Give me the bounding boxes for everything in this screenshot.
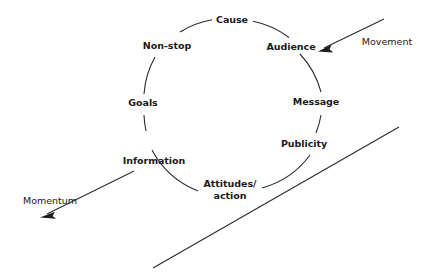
arc-publicity-to-attitudes (262, 155, 310, 188)
arc-audience-to-message (300, 54, 321, 92)
cycle-node-attitudes-action: Attitudes/ action (204, 178, 257, 201)
arc-nonstop-to-cause (180, 20, 212, 32)
arc-goals-to-nonstop (144, 57, 155, 94)
cycle-node-goals: Goals (128, 97, 157, 108)
cycle-node-publicity: Publicity (281, 138, 327, 149)
momentum-arrow-line (47, 171, 134, 214)
cycle-node-information: Information (123, 155, 186, 166)
arc-information-to-goals (144, 115, 146, 131)
momentum-arrow-label: Momentum (23, 195, 77, 206)
cycle-node-attitudes-line1: Attitudes/ (204, 178, 257, 190)
baseline-diagonal-line (153, 127, 399, 268)
cycle-node-cause: Cause (216, 14, 248, 25)
cycle-node-message: Message (293, 96, 340, 107)
arc-cause-to-audience (253, 21, 289, 37)
cycle-node-audience: Audience (266, 41, 315, 52)
cycle-diagram: Cause Audience Message Publicity Attitud… (0, 0, 431, 277)
arc-message-to-publicity (316, 115, 321, 133)
movement-arrow-head (318, 45, 333, 53)
cycle-node-non-stop: Non-stop (143, 40, 191, 51)
movement-arrow-label: Movement (362, 36, 412, 47)
cycle-node-attitudes-line2: action (204, 189, 257, 201)
